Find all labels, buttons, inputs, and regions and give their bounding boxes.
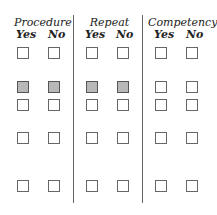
checkbox-r5-competency-no[interactable] xyxy=(186,180,198,192)
checkbox-r3-competency-no[interactable] xyxy=(186,99,198,111)
label-competency-yes: Yes xyxy=(154,28,174,41)
checkbox-r3-repeat-yes[interactable] xyxy=(86,99,98,111)
checkbox-r5-repeat-no[interactable] xyxy=(117,180,129,192)
checkbox-r4-repeat-no[interactable] xyxy=(117,132,129,144)
checkbox-r4-repeat-yes[interactable] xyxy=(86,132,98,144)
checkbox-r4-procedure-no[interactable] xyxy=(48,132,60,144)
checkbox-r3-repeat-no[interactable] xyxy=(117,99,129,111)
checkbox-r2-repeat-no[interactable] xyxy=(117,81,129,93)
checkbox-r2-repeat-yes[interactable] xyxy=(86,81,98,93)
checkbox-r1-repeat-yes[interactable] xyxy=(86,47,98,59)
label-repeat-no: No xyxy=(116,28,133,41)
checkbox-r1-competency-no[interactable] xyxy=(186,47,198,59)
checkbox-r3-competency-yes[interactable] xyxy=(155,99,167,111)
checkbox-r1-procedure-yes[interactable] xyxy=(17,47,29,59)
checkbox-r5-procedure-no[interactable] xyxy=(48,180,60,192)
checkbox-r1-repeat-no[interactable] xyxy=(117,47,129,59)
checkbox-r1-competency-yes[interactable] xyxy=(155,47,167,59)
checkbox-r2-procedure-no[interactable] xyxy=(48,81,60,93)
label-repeat-yes: Yes xyxy=(85,28,105,41)
checkbox-r3-procedure-yes[interactable] xyxy=(17,99,29,111)
label-procedure-yes: Yes xyxy=(16,28,36,41)
checkbox-r4-competency-yes[interactable] xyxy=(155,132,167,144)
label-procedure-no: No xyxy=(48,28,65,41)
checkbox-r3-procedure-no[interactable] xyxy=(48,99,60,111)
checkbox-r2-procedure-yes[interactable] xyxy=(17,81,29,93)
checkbox-r5-repeat-yes[interactable] xyxy=(86,180,98,192)
checkbox-r4-competency-no[interactable] xyxy=(186,132,198,144)
checkbox-r5-procedure-yes[interactable] xyxy=(17,180,29,192)
divider-2 xyxy=(142,15,143,203)
divider-1 xyxy=(73,15,74,203)
checkbox-r4-procedure-yes[interactable] xyxy=(17,132,29,144)
checkbox-r1-procedure-no[interactable] xyxy=(48,47,60,59)
checkbox-r5-competency-yes[interactable] xyxy=(155,180,167,192)
label-competency-no: No xyxy=(186,28,203,41)
checkbox-r2-competency-yes[interactable] xyxy=(155,81,167,93)
checkbox-r2-competency-no[interactable] xyxy=(186,81,198,93)
